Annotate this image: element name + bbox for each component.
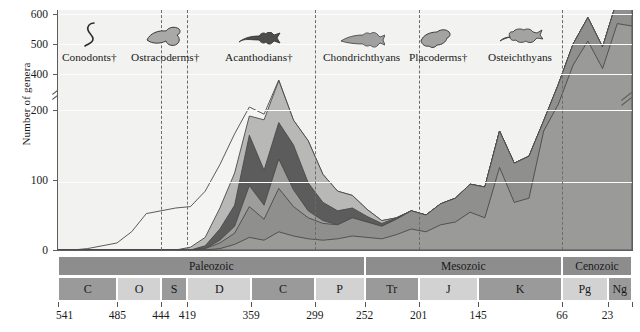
divider-line-299mya: [315, 10, 316, 250]
diversity-chart-figure: Number of genera 0100200400500600 Conodo…: [0, 0, 640, 332]
gridline-200: [58, 110, 632, 111]
y-tick-label-500: 500: [18, 38, 48, 50]
chondrichthyan-silhouette: [323, 20, 400, 50]
y-tick-label-0: 0: [18, 244, 48, 256]
gridline-400: [58, 74, 632, 75]
taxon-label: Acanthodians†: [225, 51, 293, 63]
period-cell-4: C: [251, 277, 315, 301]
time-tick-145: [478, 302, 479, 307]
conodont-silhouette: [62, 20, 117, 50]
time-tick-299: [315, 302, 316, 307]
time-tick-359: [251, 302, 252, 307]
time-tick-present: [632, 302, 633, 307]
taxon-legend-item-ostracoderm: Ostracoderms†: [131, 20, 199, 63]
time-tick-label-252: 252: [356, 309, 373, 321]
time-tick-label-541: 541: [56, 309, 73, 321]
period-cell-3: D: [187, 277, 251, 301]
time-tick-label-201: 201: [410, 309, 427, 321]
era-cell-paleozoic: Paleozoic: [58, 256, 365, 276]
taxon-label: Ostracoderms†: [131, 51, 199, 63]
time-tick-419: [187, 302, 188, 307]
placoderm-silhouette: [409, 20, 467, 50]
taxon-legend-item-osteichthyan: Osteichthyans: [488, 20, 552, 63]
period-cell-1: O: [117, 277, 161, 301]
time-tick-label-444: 444: [152, 309, 169, 321]
time-tick-label-485: 485: [109, 309, 126, 321]
divider-line-66mya: [562, 10, 563, 250]
ostracoderm-silhouette: [131, 20, 199, 50]
time-tick-label-145: 145: [470, 309, 487, 321]
right-axis-break-icon: [620, 92, 634, 106]
era-cell-mesozoic: Mesozoic: [365, 256, 562, 276]
osteichthyan-silhouette: [488, 20, 552, 50]
time-tick-66: [562, 302, 563, 307]
gridline-100: [58, 182, 632, 183]
period-cell-9: Pg: [562, 277, 608, 301]
period-cell-5: P: [315, 277, 365, 301]
taxon-label: Chondrichthyans: [323, 51, 400, 63]
time-tick-label-23: 23: [602, 309, 614, 321]
acanthodian-silhouette: [225, 20, 293, 50]
gridline-600: [58, 14, 632, 15]
y-tick-label-200: 200: [18, 104, 48, 116]
time-tick-541: [58, 302, 59, 307]
period-cell-0: C: [58, 277, 117, 301]
y-tick-mark-0: [53, 250, 58, 251]
time-tick-485: [117, 302, 118, 307]
y-tick-label-600: 600: [18, 8, 48, 20]
time-tick-label-299: 299: [306, 309, 323, 321]
x-axis-line: [57, 250, 633, 251]
time-tick-label-419: 419: [179, 309, 196, 321]
right-axis-line: [632, 10, 633, 250]
y-tick-label-100: 100: [18, 174, 48, 186]
period-cell-10: Ng: [608, 277, 632, 301]
period-cell-2: S: [161, 277, 188, 301]
period-cell-6: Tr: [365, 277, 419, 301]
time-tick-label-66: 66: [556, 309, 568, 321]
time-tick-201: [419, 302, 420, 307]
period-cell-7: J: [419, 277, 478, 301]
taxon-legend-item-acanthodian: Acanthodians†: [225, 20, 293, 63]
taxon-legend-item-placoderm: Placoderms†: [409, 20, 467, 63]
y-tick-label-400: 400: [18, 68, 48, 80]
taxon-legend-item-chondrichthyan: Chondrichthyans: [323, 20, 400, 63]
taxon-label: Placoderms†: [409, 51, 467, 63]
era-cell-cenozoic: Cenozoic: [562, 256, 632, 276]
time-tick-444: [161, 302, 162, 307]
period-cell-8: K: [478, 277, 562, 301]
time-tick-label-359: 359: [242, 309, 259, 321]
time-tick-252: [365, 302, 366, 307]
taxon-legend-item-conodont: Conodonts†: [62, 20, 117, 63]
taxon-label: Conodonts†: [62, 51, 117, 63]
time-tick-23: [608, 302, 609, 307]
taxon-label: Osteichthyans: [488, 51, 552, 63]
